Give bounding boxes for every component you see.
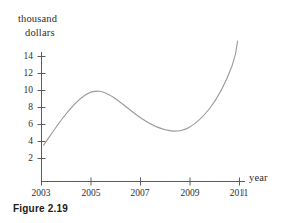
x-axis-label: year xyxy=(249,172,268,183)
y-tick-label-6: 6 xyxy=(17,119,33,129)
figure-caption: Figure 2.19 xyxy=(13,203,68,214)
figure-2-19: thousand dollars year 14 12 10 8 6 4 2 2… xyxy=(0,0,284,223)
y-tick-label-10: 10 xyxy=(17,85,33,95)
y-tick-label-12: 12 xyxy=(17,68,33,78)
scan-artifact xyxy=(243,189,244,196)
y-tick-label-8: 8 xyxy=(17,102,33,112)
x-tick-label-2011: 2011 xyxy=(222,188,256,198)
y-tick-label-2: 2 xyxy=(17,153,33,163)
y-axis-label-line-2: dollars xyxy=(25,27,55,38)
y-axis-label-line-1: thousand xyxy=(18,13,57,24)
x-tick-label-2007: 2007 xyxy=(123,188,157,198)
x-tick-label-2003: 2003 xyxy=(24,188,58,198)
x-tick-label-2009: 2009 xyxy=(173,188,207,198)
y-tick-label-14: 14 xyxy=(17,51,33,61)
x-tick-label-2005: 2005 xyxy=(74,188,108,198)
y-tick-label-4: 4 xyxy=(17,136,33,146)
data-curve xyxy=(44,41,238,145)
